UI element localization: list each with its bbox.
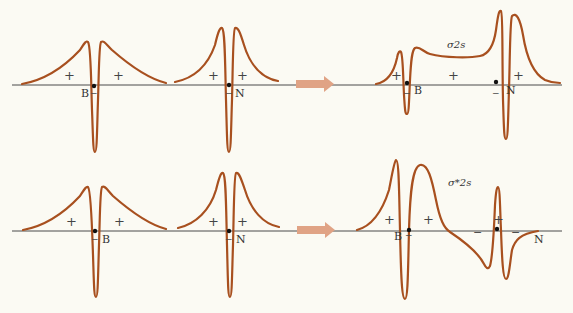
n-label: N [236,233,246,246]
sign-minus: − [90,88,98,98]
sign-plus: + [208,214,219,229]
mo-label: σ*2s [448,177,471,188]
n-atomic-orbital: N + + − [175,28,278,152]
sign-plus: + [237,68,248,83]
sign-plus: + [114,214,125,229]
b-atomic-orbital: B + + − [23,187,166,297]
b-atomic-orbital: B + + − [22,41,166,152]
sign-plus: + [237,214,248,229]
sigma-2s-curve [376,11,560,139]
sigma-2s-orbital: B N + + + − − σ2s [376,11,560,139]
sign-plus: + [384,212,395,227]
sigma-star-2s-orbital: B N + + + − − − σ*2s [357,160,544,299]
b-label: B [81,87,89,100]
b-nucleus [93,229,97,233]
sign-minus: − [225,88,233,98]
b-label: B [102,233,110,246]
sign-plus: + [113,68,124,83]
sign-plus: + [513,68,524,83]
row-antibonding: B + + − N + + − B N + + + − − − [12,160,562,299]
n-atomic-orbital: N + + − [178,173,279,297]
sign-minus: − [511,226,520,239]
arrow-icon [297,222,335,238]
b-nucleus [405,81,409,85]
sign-plus: + [448,68,459,83]
b-label: B [414,84,422,97]
sign-plus: + [208,68,219,83]
sign-minus: − [492,88,500,98]
sign-minus: − [405,230,413,240]
sign-plus: + [64,68,75,83]
sign-minus: − [91,234,99,244]
n-label: N [235,87,245,100]
sign-minus: − [403,88,411,98]
b-label: B [394,230,402,243]
sign-plus: + [391,68,402,83]
sign-plus: + [423,212,434,227]
row-bonding: B + + − N + + − B N + + + − − σ2 [12,11,562,152]
n-nucleus [494,80,498,84]
sign-plus: + [66,214,77,229]
sign-plus: + [493,212,504,227]
mo-label: σ2s [447,39,465,50]
arrow-icon [296,76,334,92]
sign-minus: − [225,234,233,244]
n-nucleus [495,227,499,231]
n-nucleus [227,83,231,87]
n-label: N [534,233,544,246]
n-label: N [506,84,516,97]
sign-minus: − [473,226,482,239]
n-nucleus [227,229,231,233]
mo-diagram: B + + − N + + − B N + + + − − σ2 [0,0,573,313]
